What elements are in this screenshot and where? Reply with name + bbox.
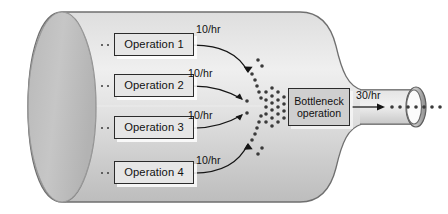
- funnel-open-end: [28, 12, 96, 202]
- feed-dots-op2: [101, 85, 109, 87]
- bottleneck-label-line2: operation: [297, 107, 341, 120]
- feed-dots-op1: [101, 44, 109, 46]
- bottleneck-operation-box[interactable]: Bottleneck operation: [288, 88, 350, 126]
- rate-label-op4: 10/hr: [196, 155, 221, 166]
- operation-box-4[interactable]: Operation 4: [114, 161, 194, 184]
- rate-label-op2: 10/hr: [188, 68, 213, 79]
- operation-label-2: Operation 2: [124, 80, 184, 91]
- rate-label-op3: 10/hr: [188, 110, 213, 121]
- diagram-canvas: Operation 1 Operation 2 Operation 3 Oper…: [0, 0, 448, 214]
- operation-label-1: Operation 1: [124, 39, 184, 50]
- rate-label-output: 30/hr: [356, 90, 381, 101]
- operation-label-3: Operation 3: [124, 122, 184, 133]
- rate-label-op1: 10/hr: [196, 24, 221, 35]
- operation-box-1[interactable]: Operation 1: [114, 33, 194, 56]
- feed-dots-op3: [101, 127, 109, 129]
- feed-dots-op4: [101, 172, 109, 174]
- bottleneck-label-line1: Bottleneck: [294, 95, 343, 108]
- operation-label-4: Operation 4: [124, 167, 184, 178]
- operation-box-2[interactable]: Operation 2: [114, 74, 194, 97]
- funnel-illustration: [0, 0, 448, 214]
- operation-box-3[interactable]: Operation 3: [114, 116, 194, 139]
